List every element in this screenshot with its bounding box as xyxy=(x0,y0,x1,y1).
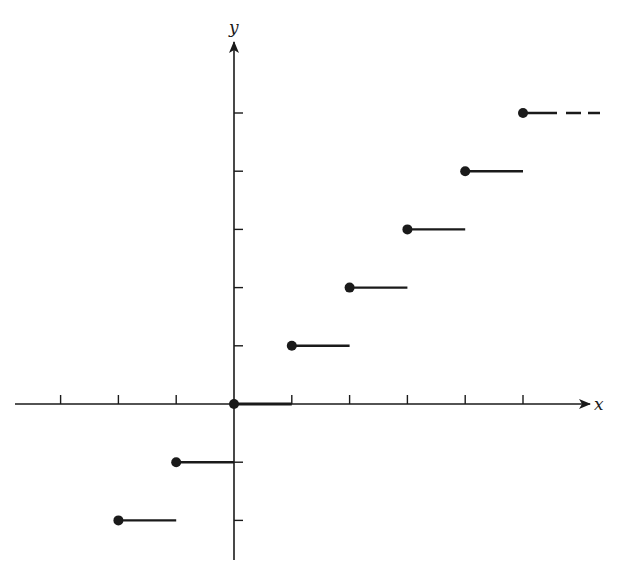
step xyxy=(518,108,600,118)
closed-endpoint-dot xyxy=(171,457,181,467)
x-axis-label: x xyxy=(594,394,604,414)
step xyxy=(402,224,465,234)
step xyxy=(113,515,176,525)
closed-endpoint-dot xyxy=(518,108,528,118)
closed-endpoint-dot xyxy=(345,283,355,293)
y-axis-ticks xyxy=(234,113,243,520)
step-function-chart: x y xyxy=(0,0,619,572)
closed-endpoint-dot xyxy=(113,515,123,525)
closed-endpoint-dot xyxy=(229,399,239,409)
step xyxy=(460,166,523,176)
closed-endpoint-dot xyxy=(460,166,470,176)
step-segments xyxy=(113,108,600,525)
closed-endpoint-dot xyxy=(287,341,297,351)
step xyxy=(171,457,234,467)
step xyxy=(229,399,292,409)
step xyxy=(287,341,350,351)
step xyxy=(345,283,408,293)
y-axis-label: y xyxy=(228,17,239,37)
closed-endpoint-dot xyxy=(402,224,412,234)
